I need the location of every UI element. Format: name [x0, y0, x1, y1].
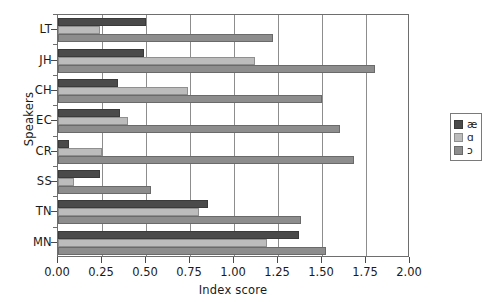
bar-TN-1	[58, 208, 199, 216]
gridline	[366, 15, 367, 256]
bar-EC-0	[58, 109, 120, 117]
bar-LT-2	[58, 34, 273, 42]
bar-CH-0	[58, 79, 118, 87]
y-axis-tick-labels: LTJHCHECCRSSTNMN	[0, 0, 52, 303]
x-tick-mark	[233, 257, 234, 263]
legend-item-0: æ	[454, 118, 477, 130]
x-tick-label-1.00: 1.00	[208, 265, 258, 279]
bar-LT-0	[58, 18, 146, 26]
y-tick-label-CR: CR	[8, 144, 52, 158]
y-tick-label-LT: LT	[8, 22, 52, 36]
x-tick-label-2.00: 2.00	[384, 265, 434, 279]
x-tick-mark	[321, 257, 322, 263]
plot-area	[57, 14, 409, 257]
x-tick-mark	[189, 257, 190, 263]
y-tick-label-CH: CH	[8, 83, 52, 97]
bar-CR-2	[58, 156, 354, 164]
x-tick-label-1.75: 1.75	[340, 265, 390, 279]
bar-CH-1	[58, 87, 188, 95]
gridline	[322, 15, 323, 256]
bar-MN-1	[58, 239, 267, 247]
bar-SS-2	[58, 186, 151, 194]
y-tick-label-EC: EC	[8, 113, 52, 127]
bar-EC-2	[58, 125, 340, 133]
bar-JH-2	[58, 65, 375, 73]
bar-CH-2	[58, 95, 322, 103]
x-tick-mark	[409, 257, 410, 263]
bar-CR-0	[58, 140, 69, 148]
x-axis-title: Index score	[57, 283, 409, 297]
x-tick-mark	[145, 257, 146, 263]
bar-JH-1	[58, 57, 255, 65]
legend-swatch-icon	[454, 146, 463, 155]
bar-CR-1	[58, 148, 102, 156]
legend-label: ɑ	[467, 132, 474, 142]
y-tick-label-MN: MN	[8, 235, 52, 249]
bar-LT-1	[58, 26, 100, 34]
legend-item-1: ɑ	[454, 131, 477, 143]
x-tick-mark	[101, 257, 102, 263]
x-tick-label-0.00: 0.00	[32, 265, 82, 279]
y-tick-label-JH: JH	[8, 53, 52, 67]
bar-chart: Speakers LTJHCHECCRSSTNMN 0.000.250.500.…	[0, 0, 497, 303]
bar-TN-0	[58, 200, 208, 208]
x-tick-mark	[57, 257, 58, 263]
legend-swatch-icon	[454, 133, 463, 142]
x-tick-mark	[365, 257, 366, 263]
x-tick-label-1.25: 1.25	[252, 265, 302, 279]
bar-MN-0	[58, 231, 299, 239]
bar-TN-2	[58, 216, 301, 224]
legend-label: æ	[467, 119, 477, 129]
x-tick-label-1.50: 1.50	[296, 265, 346, 279]
legend-item-2: ɔ	[454, 144, 477, 156]
x-tick-label-0.50: 0.50	[120, 265, 170, 279]
y-tick-label-SS: SS	[8, 174, 52, 188]
legend: æɑɔ	[450, 113, 482, 161]
x-tick-mark	[277, 257, 278, 263]
bar-MN-2	[58, 247, 326, 255]
bar-EC-1	[58, 117, 128, 125]
legend-label: ɔ	[467, 145, 473, 155]
x-tick-label-0.25: 0.25	[76, 265, 126, 279]
bar-SS-1	[58, 178, 74, 186]
bar-SS-0	[58, 170, 100, 178]
x-tick-label-0.75: 0.75	[164, 265, 214, 279]
legend-swatch-icon	[454, 120, 463, 129]
bar-JH-0	[58, 49, 144, 57]
y-tick-label-TN: TN	[8, 204, 52, 218]
